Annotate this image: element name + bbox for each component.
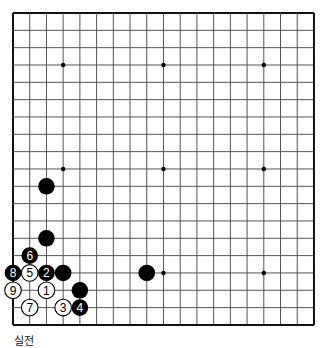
- move-number: 1: [43, 284, 50, 298]
- white-stone-7: 7: [21, 299, 38, 316]
- black-stone: [138, 265, 155, 282]
- move-number: 8: [10, 266, 17, 280]
- star-point: [262, 271, 266, 275]
- black-stone: [55, 265, 72, 282]
- move-number: 4: [77, 301, 84, 315]
- black-stone-2: 2: [38, 265, 55, 282]
- diagram-caption: 실전: [14, 336, 34, 347]
- move-number: 9: [10, 284, 17, 298]
- white-stone-9: 9: [5, 282, 22, 299]
- black-stone-6: 6: [21, 247, 38, 264]
- star-point: [61, 63, 65, 67]
- black-stone-8: 8: [5, 265, 22, 282]
- black-stone: [38, 178, 55, 195]
- move-number: 6: [26, 249, 33, 263]
- star-point: [262, 167, 266, 171]
- star-point: [161, 271, 165, 275]
- star-point: [61, 167, 65, 171]
- white-stone-3: 3: [55, 299, 72, 316]
- move-number: 5: [26, 266, 33, 280]
- move-number: 3: [60, 301, 67, 315]
- black-stone-4: 4: [72, 299, 89, 316]
- black-stone: [72, 282, 89, 299]
- star-point: [262, 63, 266, 67]
- white-stone-1: 1: [38, 282, 55, 299]
- move-number: 7: [26, 301, 33, 315]
- move-number: 2: [43, 266, 50, 280]
- star-point: [161, 63, 165, 67]
- white-stone-5: 5: [21, 265, 38, 282]
- black-stone: [38, 230, 55, 247]
- star-point: [161, 167, 165, 171]
